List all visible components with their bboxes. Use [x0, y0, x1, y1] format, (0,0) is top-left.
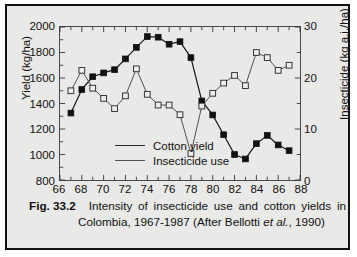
caption-line-2-pre: Colombia, 1967-1987 (After Bellotti — [78, 215, 263, 228]
data-point-cotton-yield-71 — [112, 67, 118, 73]
x-tick-86: 86 — [273, 183, 286, 195]
plot-area: Yield (kg/ha) Insecticide (kg a.i./ha) 8… — [7, 6, 352, 196]
x-tick-82: 82 — [229, 183, 242, 195]
data-point-cotton-yield-68 — [79, 87, 85, 93]
x-tick-88: 88 — [295, 183, 308, 195]
data-point-insecticide-use-83 — [243, 83, 249, 89]
figure-caption: Fig. 33.2 Intensity of insecticide use a… — [7, 198, 352, 229]
y-tick-1000: 1000 — [21, 149, 55, 161]
data-point-cotton-yield-70 — [101, 70, 107, 76]
y-tick-800: 800 — [21, 175, 55, 187]
data-point-cotton-yield-85 — [264, 133, 270, 139]
data-point-insecticide-use-85 — [264, 55, 270, 61]
data-point-insecticide-use-74 — [144, 91, 150, 97]
x-tick-66: 66 — [53, 183, 66, 195]
data-point-insecticide-use-69 — [90, 85, 96, 91]
data-point-insecticide-use-77 — [177, 112, 183, 118]
x-tick-68: 68 — [75, 183, 88, 195]
x-tick-74: 74 — [141, 183, 154, 195]
data-point-insecticide-use-86 — [275, 67, 281, 73]
data-point-insecticide-use-87 — [286, 62, 292, 68]
x-tick-78: 78 — [185, 183, 198, 195]
data-point-insecticide-use-71 — [112, 106, 118, 112]
data-point-cotton-yield-78 — [188, 55, 194, 61]
y-tick-1200: 1200 — [21, 123, 55, 135]
y2-tick-10: 10 — [304, 123, 317, 135]
y2-axis-tick-labels: 0102030 — [304, 26, 330, 181]
data-point-insecticide-use-72 — [123, 93, 129, 99]
data-point-insecticide-use-84 — [253, 50, 259, 56]
legend-swatch-line-insecticide-use — [115, 160, 145, 161]
caption-line-1: Intensity of insecticide use and cotton … — [89, 198, 346, 214]
x-tick-72: 72 — [119, 183, 132, 195]
data-point-cotton-yield-74 — [144, 34, 150, 40]
data-point-insecticide-use-80 — [210, 90, 216, 96]
data-point-cotton-yield-86 — [275, 142, 281, 148]
data-point-cotton-yield-73 — [133, 45, 139, 51]
figure-container: Yield (kg/ha) Insecticide (kg a.i./ha) 8… — [5, 4, 350, 250]
data-point-insecticide-use-81 — [221, 80, 227, 86]
data-point-insecticide-use-67 — [68, 88, 74, 94]
legend-item-insecticide-use: Insecticide use — [115, 153, 229, 168]
legend-label-cotton-yield: Cotton yield — [153, 140, 214, 152]
data-point-cotton-yield-80 — [210, 112, 216, 118]
data-point-cotton-yield-76 — [166, 41, 172, 47]
data-point-cotton-yield-77 — [177, 39, 183, 45]
data-point-insecticide-use-76 — [166, 102, 172, 108]
legend-swatch-line-cotton-yield — [115, 145, 145, 146]
data-point-insecticide-use-79 — [199, 103, 205, 109]
data-point-insecticide-use-68 — [79, 67, 85, 73]
data-point-cotton-yield-83 — [243, 156, 249, 162]
y2-tick-30: 30 — [304, 20, 317, 32]
x-tick-80: 80 — [207, 183, 220, 195]
data-point-cotton-yield-75 — [155, 34, 161, 40]
data-point-insecticide-use-70 — [101, 96, 107, 102]
y-tick-1400: 1400 — [21, 98, 55, 110]
figure-number: Fig. 33.2 — [29, 198, 76, 214]
caption-line-2-post: , 1990) — [289, 215, 325, 228]
data-point-cotton-yield-69 — [90, 74, 96, 80]
x-tick-84: 84 — [251, 183, 264, 195]
data-point-insecticide-use-82 — [232, 73, 238, 79]
y-tick-2000: 2000 — [21, 20, 55, 32]
data-point-cotton-yield-81 — [221, 132, 227, 138]
data-point-cotton-yield-67 — [68, 110, 74, 116]
data-point-cotton-yield-82 — [232, 152, 238, 158]
y2-axis-title: Insecticide (kg a.i./ha) — [338, 0, 350, 139]
data-point-insecticide-use-73 — [133, 66, 139, 72]
y2-tick-20: 20 — [304, 72, 317, 84]
data-point-cotton-yield-84 — [253, 141, 259, 147]
y-tick-1600: 1600 — [21, 72, 55, 84]
caption-et-al: et al. — [263, 215, 288, 228]
caption-line-2: Colombia, 1967-1987 (After Bellotti et a… — [7, 214, 352, 230]
x-tick-70: 70 — [97, 183, 110, 195]
data-point-cotton-yield-87 — [286, 148, 292, 154]
legend-label-insecticide-use: Insecticide use — [153, 155, 229, 167]
data-point-cotton-yield-72 — [123, 56, 129, 62]
y-axis-tick-labels: 800100012001400160018002000 — [15, 26, 55, 181]
data-point-insecticide-use-75 — [155, 102, 161, 108]
legend-item-cotton-yield: Cotton yield — [115, 138, 229, 153]
x-tick-76: 76 — [163, 183, 176, 195]
y-tick-1800: 1800 — [21, 46, 55, 58]
chart-legend: Cotton yield Insecticide use — [115, 138, 229, 168]
